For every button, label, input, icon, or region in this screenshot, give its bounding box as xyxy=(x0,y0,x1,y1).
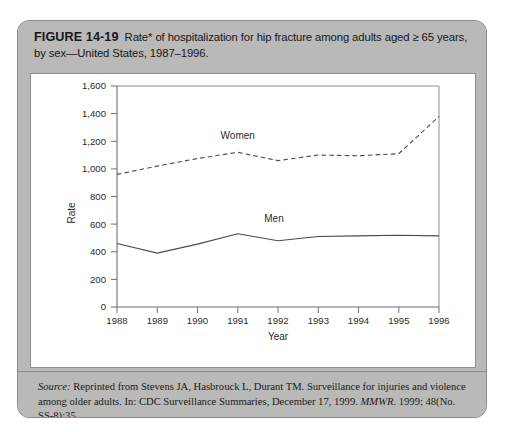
y-axis-title: Rate xyxy=(66,202,77,224)
y-tick-label: 1,200 xyxy=(82,136,106,147)
y-tick-label: 1,600 xyxy=(82,80,106,91)
line-chart: 0 200 400 600 800 1,000 1,200 1,400 1,60… xyxy=(31,74,475,367)
x-tick-label: 1991 xyxy=(227,315,248,326)
x-tick-label: 1988 xyxy=(106,315,127,326)
x-tick-label: 1992 xyxy=(267,315,288,326)
y-tick-label: 1,400 xyxy=(82,108,106,119)
chart-axes xyxy=(117,86,439,307)
series-line-women xyxy=(117,116,439,174)
y-tick-label: 0 xyxy=(101,301,106,312)
x-axis-ticks xyxy=(117,307,439,313)
figure-caption-band: FIGURE 14-19 Rate* of hospitalization fo… xyxy=(18,21,486,73)
y-tick-label: 1,000 xyxy=(82,163,106,174)
figure-caption: FIGURE 14-19 Rate* of hospitalization fo… xyxy=(34,30,470,61)
x-tick-label: 1993 xyxy=(308,315,329,326)
y-tick-label: 800 xyxy=(90,191,106,202)
chart-plot-panel: 0 200 400 600 800 1,000 1,200 1,400 1,60… xyxy=(30,73,476,368)
source-band: Source: Reprinted from Stevens JA, Hasbr… xyxy=(18,371,486,417)
x-axis-tick-labels: 1988 1989 1990 1991 1992 1993 1994 1995 … xyxy=(106,315,449,326)
x-tick-label: 1995 xyxy=(388,315,409,326)
series-line-men xyxy=(117,234,439,253)
source-citation: Source: Reprinted from Stevens JA, Hasbr… xyxy=(38,380,466,418)
series-label-men: Men xyxy=(264,213,283,224)
y-tick-label: 400 xyxy=(90,246,106,257)
source-journal: MMWR xyxy=(360,396,393,407)
source-label: Source: xyxy=(38,381,71,392)
x-tick-label: 1996 xyxy=(428,315,449,326)
x-tick-label: 1989 xyxy=(147,315,168,326)
y-axis-ticks xyxy=(111,86,117,307)
y-tick-label: 200 xyxy=(90,274,106,285)
y-axis-tick-labels: 0 200 400 600 800 1,000 1,200 1,400 1,60… xyxy=(82,80,106,312)
source-line-2-pre: older adults. In: CDC Surveillance Summa… xyxy=(70,396,361,407)
y-tick-label: 600 xyxy=(90,219,106,230)
x-tick-label: 1994 xyxy=(348,315,370,326)
figure-card: FIGURE 14-19 Rate* of hospitalization fo… xyxy=(17,20,487,418)
x-tick-label: 1990 xyxy=(187,315,208,326)
series-label-women: Women xyxy=(221,130,255,141)
figure-number: FIGURE 14-19 xyxy=(34,30,119,44)
x-axis-title: Year xyxy=(268,331,289,342)
